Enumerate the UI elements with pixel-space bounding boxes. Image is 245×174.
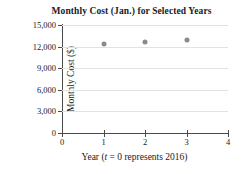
x-axis-tick-label: 3 <box>184 137 188 147</box>
gridline-y <box>62 90 228 91</box>
y-axis-tick-label: 3,000 <box>37 106 56 116</box>
gridline-y <box>62 47 228 48</box>
data-point <box>143 39 148 44</box>
data-point <box>101 42 106 47</box>
y-axis-tick-label: 15,000 <box>33 20 56 30</box>
y-axis-tick-label: 12,000 <box>33 42 56 52</box>
x-axis-label: Year (t = 0 represents 2016) <box>0 152 245 162</box>
chart-container: Monthly Cost (Jan.) for Selected Years M… <box>0 0 245 174</box>
y-axis-tick <box>58 111 62 112</box>
y-axis-tick-label: 0 <box>52 128 56 138</box>
x-axis-tick <box>62 130 63 137</box>
x-axis-tick <box>228 130 229 137</box>
x-axis-tick <box>104 130 105 137</box>
y-axis-tick-label: 6,000 <box>37 85 56 95</box>
y-axis-tick-label: 9,000 <box>37 63 56 73</box>
x-axis-tick-label: 0 <box>60 137 64 147</box>
x-axis-tick-label: 4 <box>226 137 230 147</box>
gridline-y <box>62 25 228 26</box>
x-axis-label-suffix: = 0 represents 2016) <box>107 152 187 162</box>
x-axis-tick-label: 1 <box>101 137 105 147</box>
x-axis-label-prefix: Year ( <box>82 152 105 162</box>
x-axis-tick <box>145 130 146 137</box>
y-axis-label: Monthly Cost ($) <box>66 24 76 134</box>
y-axis-tick <box>58 47 62 48</box>
x-axis-tick <box>187 130 188 137</box>
gridline-y <box>62 68 228 69</box>
x-axis-tick-label: 2 <box>143 137 147 147</box>
y-axis-tick <box>58 25 62 26</box>
gridline-y <box>62 111 228 112</box>
y-axis-tick <box>58 68 62 69</box>
y-axis-tick <box>58 90 62 91</box>
data-point <box>184 37 189 42</box>
chart-title: Monthly Cost (Jan.) for Selected Years <box>0 6 245 16</box>
plot-area: Monthly Cost ($) 03,0006,0009,00012,0001… <box>62 25 228 133</box>
